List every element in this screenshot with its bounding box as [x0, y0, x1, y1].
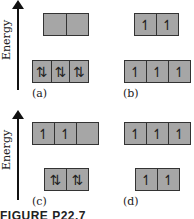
panel-a-upper-orbitals: [43, 13, 89, 36]
panel-c-lower-orbitals: ⇅ ⇅: [44, 168, 89, 191]
orbital-box-up: ↿: [147, 61, 169, 82]
panel-b-label: (b): [123, 87, 139, 100]
panel-c-label: (c): [32, 195, 47, 208]
orbital-box-paired: ⇅: [70, 61, 88, 82]
orbital-box-up: ↿: [169, 123, 190, 144]
energy-label-bottom: Energy: [0, 130, 13, 170]
panel-c-upper-orbitals: ↿ ↿: [32, 122, 99, 145]
orbital-box-up: ↿: [169, 61, 190, 82]
orbital-box: [77, 123, 98, 144]
orbital-box-up: ↿: [125, 61, 147, 82]
orbital-box-up: ↿: [135, 14, 157, 35]
panel-a-lower-orbitals: ⇅ ⇅ ⇅: [32, 60, 89, 83]
orbital-box-up: ↿: [33, 123, 55, 144]
orbital-box-paired: ⇅: [52, 61, 71, 82]
orbital-box-up: ↿: [136, 169, 158, 190]
panel-b-lower-orbitals: ↿ ↿ ↿: [124, 60, 191, 83]
orbital-box-up: ↿: [158, 169, 179, 190]
orbital-box-up: ↿: [147, 123, 169, 144]
orbital-box-up: ↿: [157, 14, 178, 35]
orbital-box-up: ↿: [55, 123, 77, 144]
panel-d-upper-orbitals: ↿ ↿ ↿: [124, 122, 191, 145]
orbital-box: [44, 14, 67, 35]
orbital-box-up: ↿: [125, 123, 147, 144]
panel-d-lower-orbitals: ↿ ↿: [135, 168, 180, 191]
energy-label-top: Energy: [0, 20, 13, 60]
panel-a-label: (a): [32, 87, 47, 100]
orbital-box-paired: ⇅: [67, 169, 88, 190]
orbital-box-paired: ⇅: [45, 169, 67, 190]
orbital-box: [67, 14, 89, 35]
figure-caption: FIGURE P22.7: [0, 209, 86, 219]
panel-d-label: (d): [123, 195, 139, 208]
panel-b-upper-orbitals: ↿ ↿: [134, 13, 179, 36]
orbital-box-paired: ⇅: [33, 61, 52, 82]
